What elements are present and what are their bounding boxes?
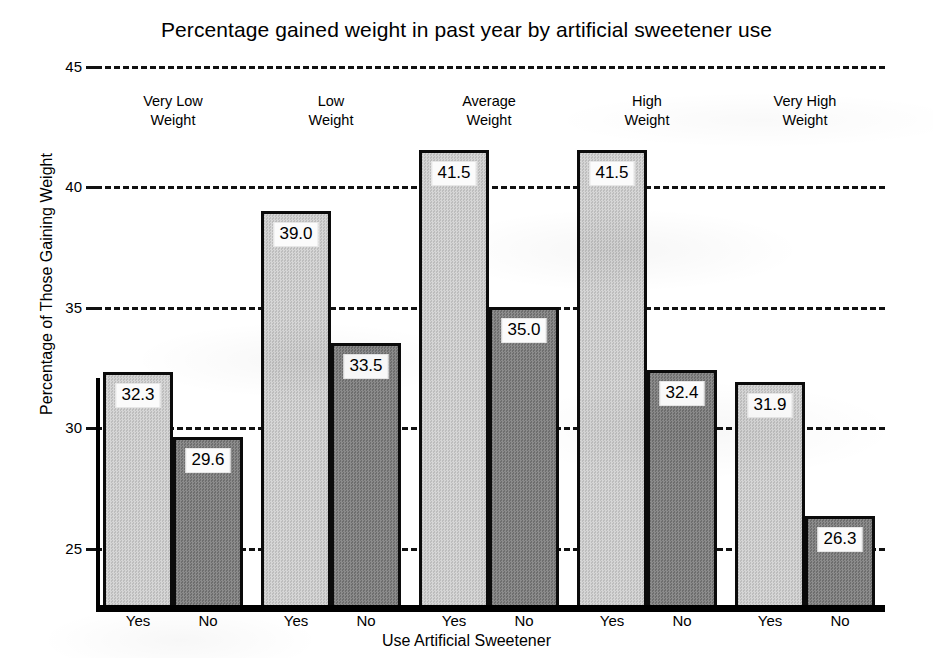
value-label-group3-yes: 41.5 xyxy=(589,161,634,186)
y-tick-label-40: 40 xyxy=(40,178,82,195)
x-tick-label-6: Yes xyxy=(600,612,624,629)
group-label-3: HighWeight xyxy=(625,92,670,130)
value-label-group3-no: 32.4 xyxy=(659,381,704,406)
group-label-line: Very High xyxy=(774,92,837,111)
bar-group1-yes xyxy=(261,211,331,608)
y-tick-label-30: 30 xyxy=(40,419,82,436)
group-label-4: Very HighWeight xyxy=(774,92,837,130)
value-label-group0-yes: 32.3 xyxy=(115,383,160,408)
x-tick-label-8: Yes xyxy=(758,612,782,629)
group-label-line: Weight xyxy=(309,111,354,130)
y-tick-mark-45 xyxy=(86,66,97,69)
gridline-40 xyxy=(96,186,885,189)
x-axis-label: Use Artificial Sweetener xyxy=(0,632,933,650)
bar-group1-no xyxy=(331,343,401,608)
x-tick-label-4: Yes xyxy=(442,612,466,629)
group-label-line: Weight xyxy=(143,111,203,130)
group-label-line: Low xyxy=(309,92,354,111)
y-tick-label-25: 25 xyxy=(40,539,82,556)
y-tick-label-45: 45 xyxy=(40,58,82,75)
value-label-group0-no: 29.6 xyxy=(185,448,230,473)
y-tick-mark-40 xyxy=(86,186,97,189)
value-label-group4-no: 26.3 xyxy=(817,527,862,552)
bar-chart: Percentage gained weight in past year by… xyxy=(0,0,933,658)
x-tick-label-7: No xyxy=(672,612,691,629)
group-label-line: High xyxy=(625,92,670,111)
x-tick-label-1: No xyxy=(198,612,217,629)
group-label-0: Very LowWeight xyxy=(143,92,203,130)
group-label-2: AverageWeight xyxy=(462,92,516,130)
y-axis-line xyxy=(96,378,100,608)
y-tick-mark-35 xyxy=(86,307,97,310)
x-tick-label-2: Yes xyxy=(284,612,308,629)
bar-group2-yes xyxy=(419,150,489,608)
y-axis-label: Percentage of Those Gaining Weight xyxy=(38,119,56,449)
gridline-45 xyxy=(96,66,885,69)
value-label-group4-yes: 31.9 xyxy=(747,393,792,418)
value-label-group2-no: 35.0 xyxy=(501,318,546,343)
x-tick-label-5: No xyxy=(514,612,533,629)
group-label-line: Very Low xyxy=(143,92,203,111)
value-label-group2-yes: 41.5 xyxy=(431,161,476,186)
group-label-1: LowWeight xyxy=(309,92,354,130)
x-axis-line xyxy=(96,605,885,612)
group-label-line: Weight xyxy=(625,111,670,130)
x-tick-label-3: No xyxy=(356,612,375,629)
x-tick-label-9: No xyxy=(830,612,849,629)
bar-group3-yes xyxy=(577,150,647,608)
bar-group2-no xyxy=(489,307,559,608)
group-label-line: Weight xyxy=(774,111,837,130)
group-label-line: Average xyxy=(462,92,516,111)
x-tick-label-0: Yes xyxy=(126,612,150,629)
chart-title: Percentage gained weight in past year by… xyxy=(0,18,933,42)
group-label-line: Weight xyxy=(462,111,516,130)
value-label-group1-no: 33.5 xyxy=(343,354,388,379)
value-label-group1-yes: 39.0 xyxy=(273,222,318,247)
y-tick-label-35: 35 xyxy=(40,298,82,315)
